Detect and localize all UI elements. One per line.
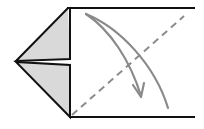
- diagram-canvas: [0, 0, 204, 129]
- fold-arrow-inner-curve: [86, 14, 141, 96]
- fold-arrow: [86, 14, 168, 108]
- origami-diagram: [0, 0, 204, 129]
